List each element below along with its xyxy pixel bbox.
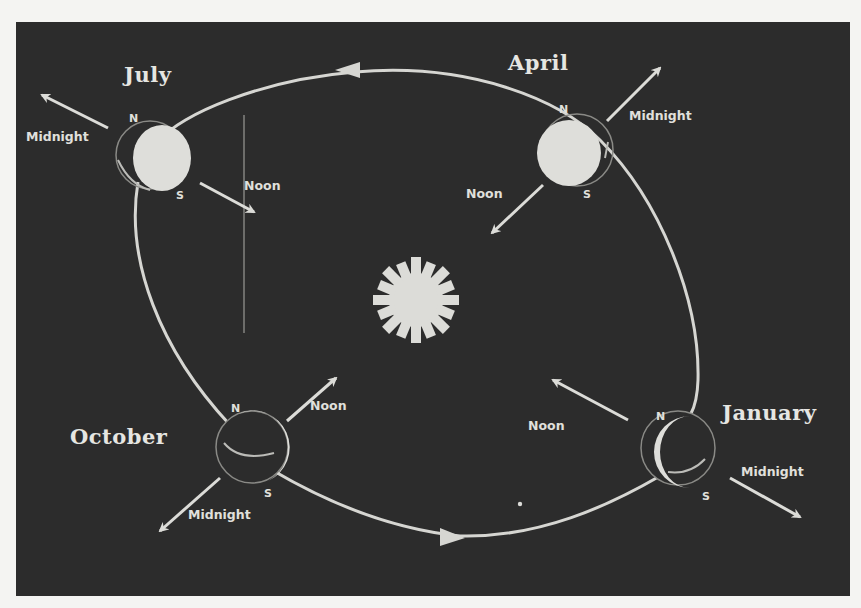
orbit-arrow-top-icon — [335, 62, 360, 78]
center-noon-arrow — [553, 380, 628, 420]
july-north-label: N — [129, 112, 138, 125]
center-noon-label: Noon — [528, 418, 565, 433]
october-noon-label: Noon — [310, 398, 347, 413]
earth-october-icon — [216, 410, 290, 483]
sun-icon — [373, 257, 459, 343]
april-midnight-label: Midnight — [629, 108, 692, 123]
month-label-january: January — [722, 400, 816, 425]
july-south-label: S — [176, 189, 184, 202]
month-label-april: April — [508, 50, 569, 75]
january-midnight-arrow — [730, 478, 800, 517]
earth-july-icon — [116, 121, 191, 191]
october-midnight-label: Midnight — [188, 507, 251, 522]
april-north-label: N — [559, 103, 568, 116]
month-label-july: July — [124, 62, 171, 87]
orbit-diagram — [0, 0, 861, 608]
january-midnight-label: Midnight — [741, 464, 804, 479]
january-north-label: N — [656, 410, 665, 423]
october-north-label: N — [231, 402, 240, 415]
orbit-arrow-bottom-icon — [440, 528, 465, 546]
july-midnight-arrow — [42, 95, 108, 128]
earth-april-icon — [537, 114, 613, 186]
january-south-label: S — [702, 490, 710, 503]
july-noon-label: Noon — [244, 178, 281, 193]
month-label-october: October — [70, 424, 167, 449]
april-south-label: S — [583, 188, 591, 201]
earth-january-icon — [641, 411, 715, 488]
april-noon-label: Noon — [466, 186, 503, 201]
july-midnight-label: Midnight — [26, 129, 89, 144]
star-dot — [518, 502, 522, 506]
october-south-label: S — [264, 487, 272, 500]
october-midnight-arrow — [160, 478, 220, 531]
